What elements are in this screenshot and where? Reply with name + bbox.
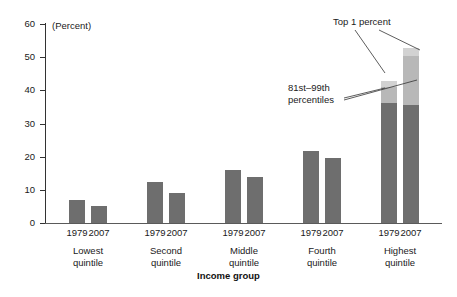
bar-segment	[403, 105, 419, 223]
bar-highest-quintile-1979	[381, 81, 397, 223]
bars-plot-area	[45, 24, 442, 223]
x-axis-group-label-line: Second	[126, 245, 206, 257]
bar-second-quintile-2007	[169, 193, 185, 224]
x-axis-group-label-line: Lowest	[48, 245, 128, 257]
annotation-81st-99th-line1: 81st–99th	[288, 82, 334, 94]
bar-middle-quintile-1979	[225, 170, 241, 223]
bar-segment	[403, 48, 419, 56]
y-axis-tick-label: 60	[24, 19, 35, 29]
bar-segment	[381, 87, 397, 103]
x-axis-group-label-line: quintile	[360, 257, 440, 269]
bar-segment	[381, 81, 397, 87]
y-axis-tick-label: 20	[24, 152, 35, 162]
bar-lowest-quintile-1979	[69, 200, 85, 223]
bar-segment	[91, 206, 107, 223]
bar-segment	[169, 193, 185, 224]
annotation-81st-99th-line2: percentiles	[288, 94, 334, 106]
bar-highest-quintile-2007	[403, 48, 419, 223]
bar-segment	[147, 182, 163, 223]
x-axis-year-label: 2007	[160, 227, 194, 238]
x-axis-group-label-line: Middle	[204, 245, 284, 257]
income-share-bar-chart: 0102030405060 (Percent) 19792007Lowestqu…	[0, 0, 457, 297]
x-axis-year-label: 2007	[316, 227, 350, 238]
x-axis-group-label-line: Highest	[360, 245, 440, 257]
x-axis-group-label: Fourthquintile	[282, 245, 362, 269]
x-axis-group-label-line: Fourth	[282, 245, 362, 257]
x-axis-group-label-line: quintile	[282, 257, 362, 269]
x-axis-year-label: 2007	[394, 227, 428, 238]
x-axis-group-label-line: quintile	[204, 257, 284, 269]
x-axis-year-label: 2007	[82, 227, 116, 238]
annotation-top-1-percent: Top 1 percent	[333, 16, 391, 28]
x-axis-group-label: Highestquintile	[360, 245, 440, 269]
bar-lowest-quintile-2007	[91, 206, 107, 223]
bar-segment	[325, 158, 341, 223]
x-axis-line	[45, 223, 442, 224]
x-axis-group-label: Secondquintile	[126, 245, 206, 269]
x-axis-year-label: 2007	[238, 227, 272, 238]
y-axis-tick-label: 40	[24, 85, 35, 95]
bar-segment	[381, 103, 397, 223]
y-axis-tick-label: 10	[24, 185, 35, 195]
x-axis-title: Income group	[0, 270, 457, 281]
bar-fourth-quintile-2007	[325, 158, 341, 223]
bar-middle-quintile-2007	[247, 177, 263, 223]
bar-segment	[303, 151, 319, 223]
y-axis-tick-label: 0	[30, 218, 35, 228]
bar-segment	[225, 170, 241, 223]
x-axis-group-label-line: quintile	[126, 257, 206, 269]
y-axis-tick-label: 50	[24, 52, 35, 62]
bar-second-quintile-1979	[147, 182, 163, 223]
bar-segment	[69, 200, 85, 223]
bar-fourth-quintile-1979	[303, 151, 319, 223]
bar-segment	[247, 177, 263, 223]
x-axis-group-label: Lowestquintile	[48, 245, 128, 269]
y-axis-tick-label: 30	[24, 119, 35, 129]
x-axis-group-label-line: quintile	[48, 257, 128, 269]
x-axis-group-label: Middlequintile	[204, 245, 284, 269]
annotation-81st-99th-percentiles: 81st–99th percentiles	[288, 82, 334, 105]
bar-segment	[403, 56, 419, 106]
y-axis-tick	[40, 223, 45, 224]
